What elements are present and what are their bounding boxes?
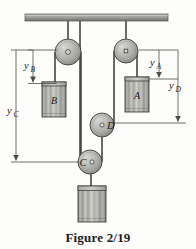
- dimension-y-b-label: y: [23, 60, 29, 71]
- dimension-y-b-subscript: B: [31, 65, 36, 74]
- right-ceiling-pulley: [114, 39, 138, 63]
- block-bottom: [78, 186, 106, 222]
- left-ceiling-pulley: [55, 39, 81, 65]
- dimension-y-c-subscript: C: [14, 110, 20, 119]
- figure-container: D C B A: [0, 0, 196, 249]
- dimension-y-a-label: y: [149, 57, 155, 68]
- block-b-label: B: [51, 95, 57, 106]
- ceiling-support: [25, 14, 168, 21]
- figure-caption: Figure 2/19: [65, 230, 130, 245]
- dimension-y-d-label: y: [168, 80, 174, 91]
- dimension-y-c-label: y: [6, 105, 12, 116]
- pulley-c-label: C: [80, 157, 88, 168]
- block-a-label: A: [133, 90, 141, 101]
- pulley-d-label: D: [106, 120, 115, 131]
- dimension-y-a-subscript: A: [156, 62, 162, 71]
- dimension-y-d-subscript: D: [175, 85, 182, 94]
- pulley-system-illustration: D C B A: [0, 0, 196, 249]
- figure-caption-wrapper: Figure 2/19: [0, 228, 196, 246]
